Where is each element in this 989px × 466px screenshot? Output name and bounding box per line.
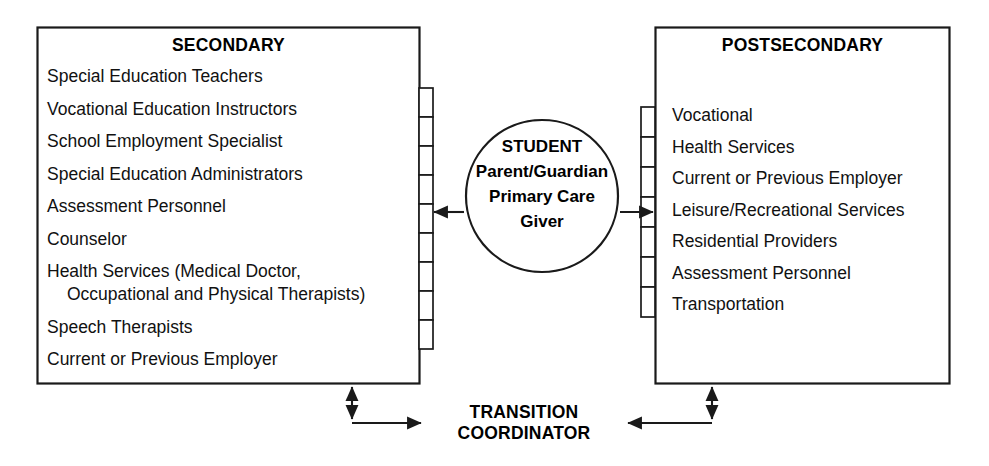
student-circle xyxy=(466,120,618,272)
postsecondary-box xyxy=(656,28,950,384)
diagram-canvas: SECONDARY Special Education Teachers Voc… xyxy=(0,0,989,466)
secondary-connector-comb xyxy=(419,88,433,349)
secondary-box xyxy=(38,28,420,384)
diagram-vector-layer xyxy=(0,0,989,466)
